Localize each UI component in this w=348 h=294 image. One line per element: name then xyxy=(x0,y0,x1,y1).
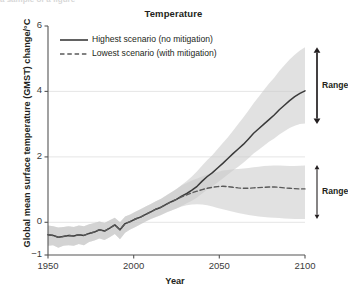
uncertainty-band-highest xyxy=(48,47,305,248)
legend-label-lowest: Lowest scenario (with mitigation) xyxy=(92,48,217,58)
x-tick-label: 2100 xyxy=(285,260,325,271)
range-arrowhead-down-range-low xyxy=(315,215,320,219)
range-label-range-high: Range xyxy=(322,80,348,90)
y-tick-label: 2 xyxy=(20,150,42,161)
y-tick-label: 6 xyxy=(20,19,42,30)
legend-label-highest: Highest scenario (no mitigation) xyxy=(92,34,213,44)
y-tick-label: 4 xyxy=(20,84,42,95)
range-arrowhead-down-range-high xyxy=(314,119,321,125)
uncertainty-band-lowest xyxy=(48,165,305,247)
y-axis-tick-labels: −10246 xyxy=(14,0,42,294)
range-arrowhead-up-range-high xyxy=(314,47,321,53)
y-tick-label: −1 xyxy=(20,248,42,259)
x-axis-label: Year xyxy=(120,276,230,286)
chart-title: Temperature xyxy=(0,8,347,19)
y-tick-label: 0 xyxy=(20,215,42,226)
x-tick-label: 2000 xyxy=(114,260,154,271)
x-tick-label: 2050 xyxy=(199,260,239,271)
range-label-range-low: Range xyxy=(322,186,348,196)
range-arrowhead-up-range-low xyxy=(315,165,320,169)
x-tick-label: 1950 xyxy=(28,260,68,271)
